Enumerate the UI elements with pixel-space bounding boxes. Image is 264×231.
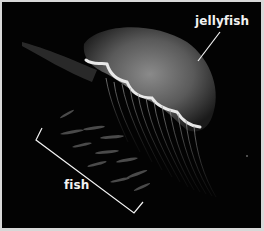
fish-label: fish: [64, 179, 89, 191]
jellyfish-label: jellyfish: [195, 15, 249, 27]
photo-illustration: [2, 2, 261, 228]
particle: [246, 155, 248, 157]
figure-frame: jellyfish fish: [0, 0, 264, 231]
jellyfish-pointer-line: [198, 32, 220, 61]
jellyfish-photo: jellyfish fish: [2, 2, 261, 228]
fish-bracket: [36, 128, 143, 213]
